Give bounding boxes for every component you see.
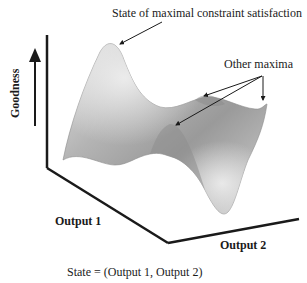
global-maximum-label: State of maximal constraint satisfaction (112, 6, 302, 21)
goodness-axis-label: Goodness (8, 69, 23, 118)
other-maxima-label: Other maxima (224, 57, 293, 72)
output1-axis-label: Output 1 (55, 214, 101, 229)
goodness-arrow-icon (29, 48, 41, 126)
goodness-landscape-diagram: State of maximal constraint satisfaction… (0, 0, 307, 283)
output2-axis-label: Output 2 (220, 238, 266, 253)
global-max-arrow (120, 22, 162, 44)
state-caption: State = (Output 1, Output 2) (67, 265, 202, 280)
output1-axis-line (47, 168, 168, 243)
